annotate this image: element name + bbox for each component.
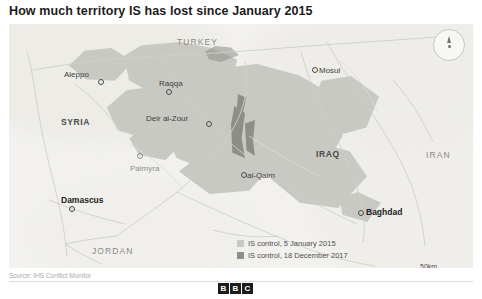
city-label-al-qaim: al-Qaim (247, 171, 275, 180)
city-marker-palmyra (137, 153, 143, 159)
city-label-palmyra: Palmyra (130, 164, 159, 173)
infographic-map: How much territory IS has lost since Jan… (0, 0, 482, 299)
country-label-iran: IRAN (426, 151, 451, 160)
city-marker-raqqa (166, 89, 172, 95)
city-label-baghdad: Baghdad (366, 208, 402, 217)
city-marker-damascus (69, 206, 75, 212)
north-arrow-icon (433, 29, 465, 61)
city-label-raqqa: Raqqa (159, 79, 183, 88)
bbc-letter-c: C (242, 283, 253, 294)
country-label-iraq: IRAQ (316, 150, 340, 159)
map-vector-layer (9, 24, 473, 268)
scale-bar: 50km 50 miles (420, 262, 473, 268)
city-marker-deir-al-zour (206, 121, 212, 127)
legend-item-2017: IS control, 18 December 2017 (237, 250, 387, 261)
city-label-deir-al-zour: Deir al-Zour (146, 114, 188, 123)
city-marker-baghdad (358, 210, 364, 216)
map-canvas[interactable]: TURKEY SYRIA IRAQ IRAN JORDAN Aleppo Raq… (9, 24, 473, 268)
page-title: How much territory IS has lost since Jan… (9, 4, 469, 20)
compass-pivot (448, 45, 451, 48)
city-marker-mosul (312, 67, 318, 73)
bbc-logo: B B C (218, 283, 253, 294)
country-label-jordan: JORDAN (92, 247, 134, 256)
country-label-syria: SYRIA (61, 118, 90, 127)
legend-item-2015: IS control, 5 January 2015 (237, 238, 387, 249)
legend-label-2017: IS control, 18 December 2017 (248, 251, 348, 260)
legend-label-2015: IS control, 5 January 2015 (248, 239, 336, 248)
city-label-aleppo: Aleppo (64, 70, 89, 79)
city-label-mosul: Mosul (319, 66, 340, 75)
footer-divider (9, 281, 473, 282)
legend: IS control, 5 January 2015 IS control, 1… (237, 238, 387, 262)
scale-label-km: 50km (420, 262, 473, 268)
legend-swatch-2015 (237, 240, 244, 247)
city-marker-al-qaim (241, 172, 247, 178)
country-label-turkey: TURKEY (177, 38, 218, 47)
city-label-damascus: Damascus (61, 196, 104, 205)
bbc-letter-b2: B (230, 283, 241, 294)
source-credit: Source: IHS Conflict Monitor (9, 272, 91, 279)
bbc-letter-b1: B (218, 283, 229, 294)
city-marker-aleppo (98, 79, 104, 85)
north-needle (447, 36, 451, 43)
legend-swatch-2017 (237, 252, 244, 259)
